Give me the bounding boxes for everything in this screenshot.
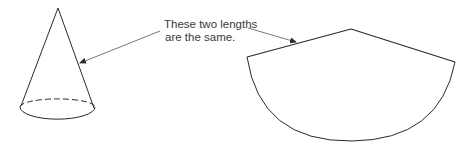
- cone-left-slant: [21, 8, 58, 106]
- sector-left-radius: [247, 29, 351, 57]
- arrow-to-cone-slant: [80, 31, 160, 63]
- cone-right-slant: [58, 8, 94, 108]
- sector-arc: [247, 57, 455, 141]
- annotation-line-2: are the same.: [165, 31, 235, 44]
- sector-figure: [247, 29, 455, 141]
- cone-base-front-arc: [20, 107, 95, 119]
- cone-figure: [20, 8, 95, 119]
- sector-right-radius: [351, 29, 455, 62]
- annotation-line-1: These two lengths: [164, 18, 257, 31]
- cone-base-back-arc-dashed: [20, 99, 95, 107]
